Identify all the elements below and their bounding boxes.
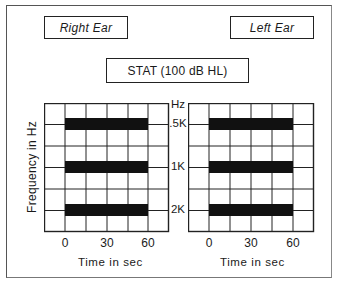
bar-1khz bbox=[209, 161, 293, 173]
x-tick-right-60: 60 bbox=[286, 236, 299, 250]
bar-500hz bbox=[209, 118, 293, 130]
x-tick-right-0: 0 bbox=[206, 236, 213, 250]
right-ear-label-box: Right Ear bbox=[44, 16, 128, 39]
stimulus-label: STAT (100 dB HL) bbox=[128, 64, 228, 78]
left-ear-label-box: Left Ear bbox=[230, 16, 314, 39]
right-ear-label: Right Ear bbox=[60, 21, 113, 35]
y-axis-label: Frequency in Hz bbox=[25, 117, 39, 217]
y-tick-1khz: 1K bbox=[166, 160, 190, 172]
bar-2khz bbox=[65, 204, 148, 216]
y-tick-2khz: 2K bbox=[166, 203, 190, 215]
bar-1khz bbox=[65, 161, 148, 173]
x-tick-left-60: 60 bbox=[141, 236, 154, 250]
y-tick-500hz: .5K bbox=[166, 117, 190, 129]
right-ear-chart bbox=[44, 103, 170, 233]
left-ear-chart bbox=[188, 103, 315, 233]
x-tick-left-0: 0 bbox=[62, 236, 69, 250]
x-axis-label-right: Time in sec bbox=[220, 256, 285, 268]
x-axis-label-left: Time in sec bbox=[78, 256, 143, 268]
bar-2khz bbox=[209, 204, 293, 216]
x-tick-right-30: 30 bbox=[244, 236, 257, 250]
left-ear-label: Left Ear bbox=[250, 21, 294, 35]
stimulus-label-box: STAT (100 dB HL) bbox=[106, 58, 249, 83]
right-ear-grid bbox=[44, 103, 170, 233]
x-tick-left-30: 30 bbox=[100, 236, 113, 250]
bar-500hz bbox=[65, 118, 148, 130]
left-ear-grid bbox=[188, 103, 315, 233]
hz-unit-label: Hz bbox=[166, 98, 190, 110]
